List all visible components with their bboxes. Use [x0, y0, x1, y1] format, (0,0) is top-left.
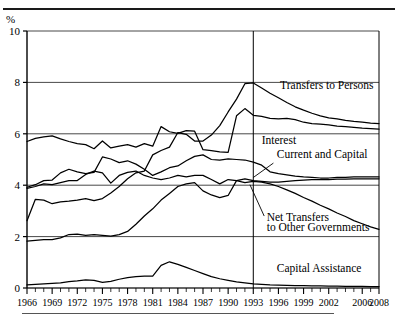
- annotation-capital-assistance: Capital Assistance: [277, 262, 362, 275]
- x-tick-label-1978: 1978: [118, 297, 138, 308]
- x-tick-label-1999: 1999: [294, 297, 314, 308]
- x-tick-label-1969: 1969: [42, 297, 62, 308]
- series-line-transfers-to-persons: [27, 109, 379, 153]
- x-tick-label-1990: 1990: [218, 297, 238, 308]
- y-tick-label-10: 10: [9, 25, 21, 37]
- y-tick-label-2: 2: [15, 231, 21, 243]
- x-tick-label-2002: 2002: [319, 297, 339, 308]
- x-tick-label-1975: 1975: [92, 297, 112, 308]
- annotation-leader-3: [250, 185, 264, 216]
- annotation-to-other-governments: to Other Governments: [267, 221, 370, 233]
- x-tick-label-2008: 2008: [369, 297, 389, 308]
- annotation-leader-2: [253, 163, 273, 177]
- line-chart-plot: 0246810196619691972197519781981198419871…: [0, 0, 399, 316]
- figure-container: % 02468101966196919721975197819811984198…: [0, 0, 399, 316]
- annotation-current-and-capital: Current and Capital: [277, 148, 368, 161]
- annotation-interest: Interest: [262, 134, 297, 146]
- y-tick-label-4: 4: [15, 179, 21, 191]
- x-tick-label-1987: 1987: [193, 297, 213, 308]
- bottom-horizontal-rule: [22, 313, 334, 314]
- y-tick-label-6: 6: [15, 128, 21, 140]
- y-tick-label-8: 8: [15, 76, 21, 88]
- x-tick-label-1996: 1996: [268, 297, 288, 308]
- y-tick-label-0: 0: [15, 282, 21, 294]
- x-tick-label-1972: 1972: [67, 297, 87, 308]
- x-tick-label-1993: 1993: [243, 297, 263, 308]
- x-tick-label-1984: 1984: [168, 297, 188, 308]
- x-tick-label-1981: 1981: [143, 297, 163, 308]
- x-tick-label-1966: 1966: [17, 297, 37, 308]
- annotation-transfers-to-persons: Transfers to Persons: [280, 79, 374, 91]
